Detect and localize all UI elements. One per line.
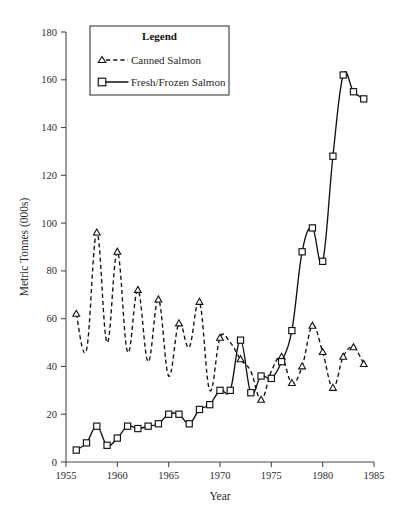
data-point-triangle bbox=[93, 229, 100, 235]
data-point-square bbox=[186, 421, 192, 427]
data-point-square bbox=[94, 423, 100, 429]
data-point-triangle bbox=[114, 248, 121, 254]
data-point-square bbox=[83, 440, 89, 446]
y-tick-label: 40 bbox=[47, 361, 58, 372]
x-tick-label: 1965 bbox=[158, 470, 179, 481]
data-point-triangle bbox=[196, 298, 203, 304]
legend: Legend Canned Salmon Fresh/Frozen Salmon bbox=[90, 26, 229, 95]
y-axis: 020406080100120140160180 bbox=[41, 27, 66, 468]
data-point-square bbox=[361, 96, 367, 102]
x-tick-label: 1985 bbox=[364, 470, 385, 481]
y-tick-label: 100 bbox=[41, 218, 57, 229]
data-point-square bbox=[145, 423, 151, 429]
data-point-square bbox=[114, 435, 120, 441]
legend-label-fresh-frozen-salmon: Fresh/Frozen Salmon bbox=[131, 76, 226, 88]
chart-container: 020406080100120140160180 195519601965197… bbox=[0, 0, 400, 517]
data-point-triangle bbox=[350, 344, 357, 350]
data-point-triangle bbox=[134, 286, 141, 292]
y-tick-label: 20 bbox=[47, 409, 58, 420]
data-point-triangle bbox=[330, 384, 337, 390]
salmon-landings-chart: 020406080100120140160180 195519601965197… bbox=[0, 0, 400, 517]
data-point-square bbox=[289, 328, 295, 334]
x-tick-label: 1975 bbox=[261, 470, 282, 481]
data-point-square bbox=[350, 89, 356, 95]
data-point-triangle bbox=[309, 322, 316, 328]
data-point-square bbox=[279, 359, 285, 365]
data-point-triangle bbox=[319, 349, 326, 355]
data-point-square bbox=[299, 249, 305, 255]
data-point-square bbox=[73, 447, 79, 453]
x-axis: 1955196019651970197519801985 bbox=[56, 462, 385, 481]
data-point-square bbox=[309, 225, 315, 231]
y-tick-group: 020406080100120140160180 bbox=[41, 27, 66, 468]
data-point-square bbox=[330, 153, 336, 159]
data-point-square bbox=[217, 387, 223, 393]
y-axis-title: Metric Tonnes (000s) bbox=[18, 198, 31, 297]
data-point-square bbox=[248, 390, 254, 396]
data-point-square bbox=[104, 442, 110, 448]
data-point-square bbox=[227, 387, 233, 393]
data-point-square bbox=[320, 258, 326, 264]
legend-label-canned-salmon: Canned Salmon bbox=[131, 54, 201, 66]
data-point-square bbox=[155, 421, 161, 427]
square-icon bbox=[98, 78, 106, 86]
data-point-square bbox=[135, 425, 141, 431]
data-point-triangle bbox=[360, 360, 367, 366]
y-tick-label: 80 bbox=[47, 265, 58, 276]
data-point-square bbox=[176, 411, 182, 417]
x-tick-label: 1980 bbox=[312, 470, 333, 481]
data-point-square bbox=[207, 402, 213, 408]
x-tick-group: 1955196019651970197519801985 bbox=[56, 462, 385, 481]
data-point-square bbox=[340, 72, 346, 78]
data-point-triangle bbox=[258, 396, 265, 402]
x-tick-label: 1970 bbox=[210, 470, 231, 481]
y-tick-label: 120 bbox=[41, 170, 57, 181]
series-group bbox=[73, 72, 367, 454]
y-tick-label: 180 bbox=[41, 27, 57, 38]
data-point-square bbox=[125, 423, 131, 429]
data-point-triangle bbox=[340, 353, 347, 359]
data-point-triangle bbox=[155, 296, 162, 302]
y-tick-label: 160 bbox=[41, 74, 57, 85]
data-point-triangle bbox=[176, 320, 183, 326]
y-tick-label: 0 bbox=[52, 457, 57, 468]
legend-title: Legend bbox=[142, 30, 177, 42]
data-point-square bbox=[268, 375, 274, 381]
data-point-square bbox=[196, 406, 202, 412]
data-point-square bbox=[166, 411, 172, 417]
x-tick-label: 1960 bbox=[107, 470, 128, 481]
data-point-square bbox=[258, 373, 264, 379]
y-tick-label: 60 bbox=[47, 313, 58, 324]
data-point-triangle bbox=[73, 310, 80, 316]
data-point-triangle bbox=[299, 363, 306, 369]
x-tick-label: 1955 bbox=[56, 470, 77, 481]
y-tick-label: 140 bbox=[41, 122, 57, 133]
series-canned-salmon bbox=[73, 229, 367, 402]
data-point-square bbox=[237, 337, 243, 343]
series-fresh-frozen-salmon bbox=[73, 72, 367, 454]
x-axis-title: Year bbox=[209, 490, 230, 502]
